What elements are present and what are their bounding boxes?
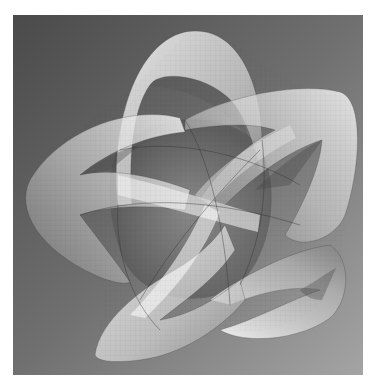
render-panel bbox=[13, 15, 363, 375]
knot-surface-render bbox=[13, 15, 363, 375]
image-frame bbox=[0, 0, 377, 387]
